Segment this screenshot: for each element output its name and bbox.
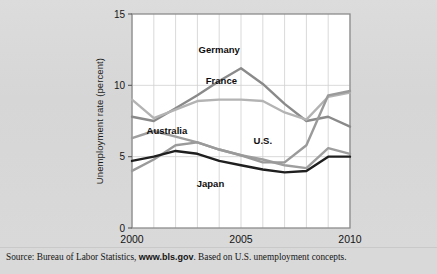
source-suffix: . Based on U.S. unemployment concepts. — [193, 252, 346, 262]
y-tick-label: 15 — [114, 9, 126, 20]
y-tick-label: 10 — [114, 80, 126, 91]
unemployment-line-chart: 051015200020052010Unemployment rate (per… — [92, 6, 362, 246]
chart-container: 051015200020052010Unemployment rate (per… — [92, 6, 362, 246]
source-note: Source: Bureau of Labor Statistics, www.… — [6, 252, 431, 262]
source-prefix: Source: Bureau of Labor Statistics, — [6, 252, 139, 262]
series-label-australia: Australia — [147, 125, 188, 136]
source-link[interactable]: www.bls.gov — [139, 252, 194, 262]
series-label-us: U.S. — [254, 135, 272, 146]
y-tick-label: 5 — [119, 151, 125, 162]
y-axis-title: Unemployment rate (percent) — [94, 58, 105, 184]
series-label-france: France — [206, 75, 237, 86]
x-tick-label: 2000 — [120, 233, 144, 245]
series-label-germany: Germany — [199, 44, 241, 55]
figure-divider — [0, 247, 437, 248]
y-tick-label: 0 — [119, 223, 125, 234]
x-tick-label: 2010 — [338, 233, 362, 245]
x-tick-label: 2005 — [229, 233, 253, 245]
figure-panel: 051015200020052010Unemployment rate (per… — [0, 0, 437, 248]
series-label-japan: Japan — [197, 178, 225, 189]
